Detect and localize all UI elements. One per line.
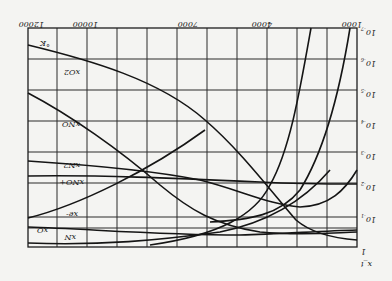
x-tick-12000: 12000 [19,20,44,29]
x-axis-unit-label: °K [39,39,50,48]
label-x-o2: xO2 [64,68,80,77]
y-tick-m4: 10 [366,121,376,130]
label-x-o: xO [36,226,48,235]
y-tick-m2: 10 [366,183,376,192]
svg-text:10-7: 10-7 [360,26,376,37]
label-x-no: xNO [61,120,80,129]
svg-text:10-4: 10-4 [361,119,376,130]
y-axis-title: x_i [360,260,372,269]
label-x-n2: xN2 [63,161,80,170]
x-tick-1000: 1000 [342,20,362,29]
y-tick-m1: 10 [366,215,376,224]
y-tick-m6: 10 [366,59,376,68]
y-tick-one: 1 [361,247,366,256]
label-x-eminus: xe- [66,210,78,219]
svg-text:10-1: 10-1 [361,213,376,224]
svg-text:10-2: 10-2 [361,181,376,192]
x-tick-4000: 4000 [252,20,273,29]
curve-labels: xO2 xNO xN2 xNO+ xe- xO xN [36,68,84,242]
svg-text:10-3: 10-3 [361,150,376,161]
x-tick-10000: 10000 [73,20,98,29]
svg-text:10-6: 10-6 [360,57,376,68]
svg-text:10-5: 10-5 [361,88,376,99]
y-tick-m7: 10 [366,28,376,37]
y-axis-ticks: 10-7 10-6 10-5 10-4 10-3 10-2 10-1 1 [360,26,376,256]
x-tick-7000: 7000 [178,20,198,29]
label-x-noplus: xNO+ [59,178,84,187]
y-tick-m3: 10 [366,152,376,161]
curve-steep-2 [210,28,350,222]
label-x-n: xN [63,233,76,242]
curve-steep-1 [150,28,311,245]
y-tick-m5: 10 [366,90,376,99]
chart-canvas: 1000 4000 7000 10000 12000 10-7 10-6 10-… [0,0,392,281]
